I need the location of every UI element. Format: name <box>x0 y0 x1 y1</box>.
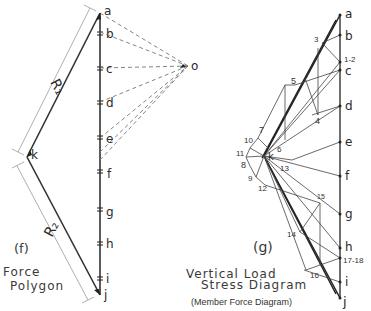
node-label-8: 8 <box>241 160 246 170</box>
figure-label-g: (g) <box>253 239 273 255</box>
node-label-11: 11 <box>236 149 245 158</box>
point-label-a: a <box>104 4 111 18</box>
node-label-3: 3 <box>314 35 319 44</box>
truss-graphic-statics-diagram: a b c d e f g h i j o k R₁ R₂ (f) Force … <box>0 0 371 311</box>
node-label-15: 15 <box>317 193 325 200</box>
stress-point-label-h: h <box>345 240 353 254</box>
force-polygon-caption-line1: Force <box>3 265 40 279</box>
point-label-f: f <box>107 167 112 181</box>
stress-point-label-e: e <box>345 135 352 149</box>
node-label-14: 14 <box>287 230 296 239</box>
reaction-label-r2: R₂ <box>41 218 62 239</box>
point-label-k: k <box>31 148 38 162</box>
point-label-j: j <box>103 288 107 302</box>
node-label-13: 13 <box>280 164 289 173</box>
dimension-lines <box>12 5 96 303</box>
point-label-e: e <box>106 132 113 146</box>
reaction-label-r1: R₁ <box>47 76 68 97</box>
stress-diagram: a b c d e f g h i j k 1-2 3 4 5 6 7 8 9 … <box>186 7 364 309</box>
stress-point-label-f: f <box>345 169 350 183</box>
stress-point-label-i: i <box>345 275 348 289</box>
stress-point-label-j: j <box>342 294 347 309</box>
node-label-10: 10 <box>244 136 253 145</box>
node-label-5: 5 <box>291 76 296 86</box>
node-label-1-2: 1-2 <box>344 55 356 64</box>
point-label-c: c <box>106 62 113 76</box>
point-label-h: h <box>106 237 114 251</box>
node-label-17-18: 17-18 <box>343 256 364 265</box>
force-polygon: a b c d e f g h i j o k R₁ R₂ (f) Force … <box>3 4 198 303</box>
node-label-6: 6 <box>277 145 282 154</box>
arrow-icon <box>94 289 100 295</box>
node-label-16: 16 <box>310 271 319 280</box>
stress-point-label-d: d <box>345 99 353 113</box>
diagram-svg: a b c d e f g h i j o k R₁ R₂ (f) Force … <box>0 0 371 311</box>
point-label-i: i <box>106 272 109 286</box>
point-label-d: d <box>106 96 114 110</box>
stress-subcaption: (Member Force Diagram) <box>191 297 292 307</box>
point-label-b: b <box>106 27 114 41</box>
stress-point-label-g: g <box>345 207 353 221</box>
node-label-4: 4 <box>315 116 320 126</box>
node-label-9: 9 <box>248 174 253 183</box>
force-polygon-caption-line2: Polygon <box>10 279 64 293</box>
node-label-7: 7 <box>259 125 264 135</box>
stress-point-label-a: a <box>345 7 352 21</box>
stress-point-label-c: c <box>345 64 352 78</box>
node-label-12: 12 <box>258 184 267 193</box>
figure-label-f: (f) <box>14 241 29 256</box>
pole-label-o: o <box>191 59 198 73</box>
stress-center-label-k: k <box>268 151 274 162</box>
stress-caption-line2: Stress Diagram <box>201 278 307 292</box>
stress-point-label-b: b <box>345 29 353 43</box>
point-label-g: g <box>106 205 114 219</box>
